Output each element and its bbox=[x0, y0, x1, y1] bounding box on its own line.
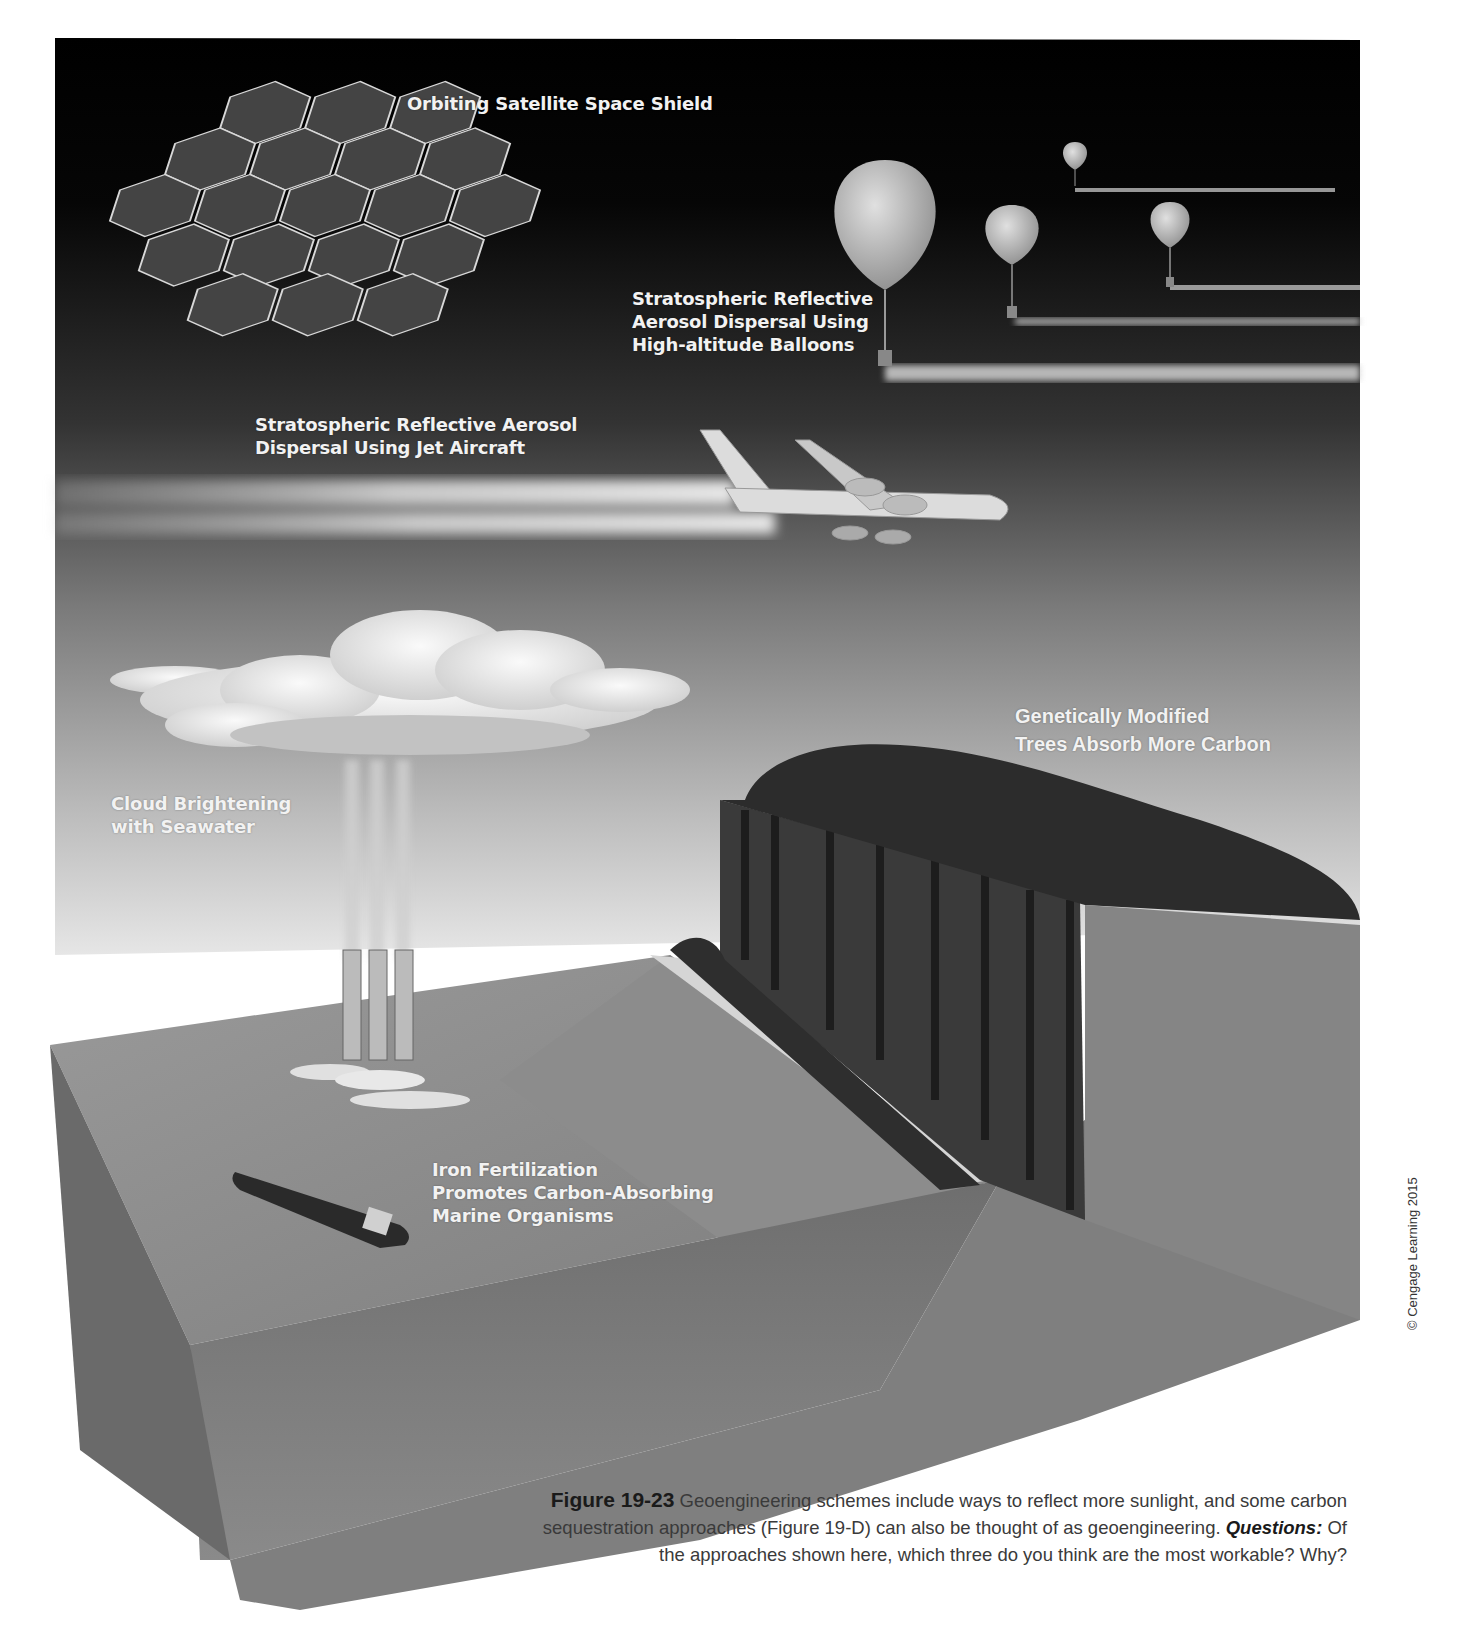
figure-number: Figure 19-23 bbox=[551, 1488, 675, 1511]
label-space-shield: Orbiting Satellite Space Shield bbox=[407, 92, 713, 115]
label-iron-fertilization: Iron Fertilization Promotes Carbon-Absor… bbox=[432, 1158, 714, 1227]
label-gm-trees: Genetically Modified Trees Absorb More C… bbox=[1015, 702, 1271, 758]
label-cloud-brightening: Cloud Brightening with Seawater bbox=[111, 792, 291, 838]
seawater-spray-columns bbox=[345, 760, 410, 960]
figure-caption: Figure 19-23 Geoengineering schemes incl… bbox=[527, 1486, 1347, 1568]
label-jet-dispersal: Stratospheric Reflective Aerosol Dispers… bbox=[255, 413, 577, 459]
questions-label: Questions: bbox=[1226, 1517, 1323, 1538]
label-balloon-dispersal: Stratospheric Reflective Aerosol Dispers… bbox=[632, 287, 873, 356]
geoengineering-illustration: Orbiting Satellite Space Shield Stratosp… bbox=[0, 0, 1472, 1645]
copyright-notice: © Cengage Learning 2015 bbox=[1405, 1177, 1420, 1330]
